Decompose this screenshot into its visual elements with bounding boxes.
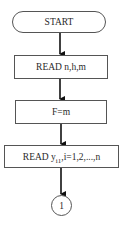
connector-label: 1	[59, 201, 64, 211]
read-inputs-label: READ n,h,m	[36, 62, 86, 72]
read-inputs-process: READ n,h,m	[14, 55, 108, 79]
assign-process: F=m	[15, 100, 107, 124]
read-y-label: READ yi1,i=1,2,...,n	[23, 152, 100, 162]
start-terminator: START	[12, 11, 106, 33]
start-label: START	[45, 17, 74, 27]
assign-label: F=m	[52, 107, 70, 117]
read-y-process: READ yi1,i=1,2,...,n	[4, 145, 119, 168]
read-y-rest: ,i=1,2,...,n	[61, 152, 100, 162]
read-y-main: READ y	[23, 152, 56, 162]
offpage-connector: 1	[51, 195, 72, 216]
